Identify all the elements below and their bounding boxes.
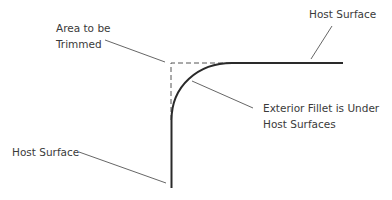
leader-host-surface-left [79,152,166,183]
label-host-surface-left: Host Surface [12,144,79,160]
label-host-surface-top: Host Surface [309,6,376,22]
label-area-trimmed-line1: Area to be [56,20,111,36]
fillet-diagram: Area to be Trimmed Host Surface Exterior… [0,0,392,200]
exterior-fillet-arc [172,63,233,120]
label-area-trimmed-line2: Trimmed [56,36,102,52]
leader-host-surface-top [311,26,332,59]
leader-fillet [192,81,253,108]
label-fillet-line1: Exterior Fillet is Under [263,100,379,116]
leader-area-trimmed [105,40,165,62]
label-fillet-line2: Host Surfaces [263,116,336,132]
trim-area-dashed-corner [171,63,232,120]
